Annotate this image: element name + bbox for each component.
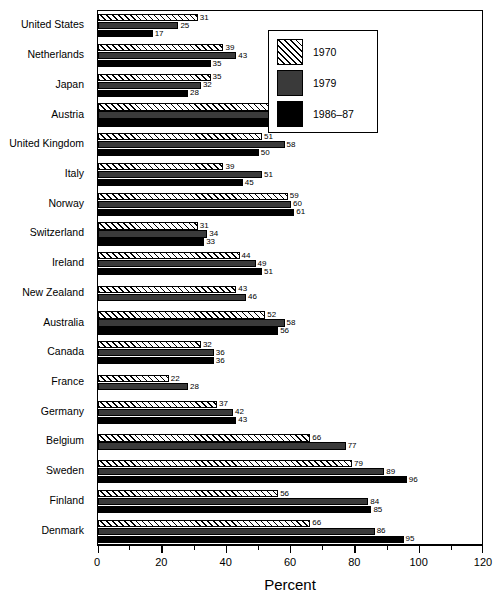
horizontal-bar-chart: United StatesNetherlandsJapanAustriaUnit… [0, 0, 496, 607]
chart-legend: 197019791986–87 [268, 30, 378, 133]
axis-tick-major [98, 545, 99, 553]
bar-1970-ireland [98, 252, 240, 259]
axis-tick-major [290, 545, 291, 553]
category-label: Germany [41, 406, 84, 417]
bar-1970-denmark [98, 520, 310, 527]
axis-tick-major [226, 545, 227, 553]
bar-1970-finland [98, 490, 278, 497]
value-axis-title: Percent [97, 576, 483, 594]
bar-value-label: 31 [200, 14, 209, 22]
bar-1979-austria [98, 111, 288, 118]
bar-value-label: 51 [264, 268, 273, 276]
category-label: United States [21, 19, 84, 30]
bar-1979-australia [98, 319, 285, 326]
bar-1970-sweden [98, 460, 352, 467]
bar-1970-germany [98, 401, 217, 408]
axis-tick-label: 40 [220, 556, 232, 568]
legend-swatch-198687 [277, 101, 303, 127]
bar-198687-germany [98, 417, 236, 424]
category-label: Finland [50, 495, 84, 506]
bar-1970-australia [98, 311, 265, 318]
axis-tick-label: 0 [94, 556, 100, 568]
bar-value-label: 35 [213, 60, 222, 68]
bar-value-label: 50 [261, 149, 270, 157]
category-label: United Kingdom [9, 138, 84, 149]
value-axis: 020406080100120 [97, 545, 483, 565]
bar-value-label: 56 [280, 490, 289, 498]
bar-value-label: 52 [267, 311, 276, 319]
legend-item-1979: 1979 [277, 70, 375, 98]
bar-198687-netherlands [98, 60, 211, 67]
axis-tick-minor [387, 545, 388, 550]
category-label: Norway [48, 198, 84, 209]
category-label: Switzerland [30, 227, 84, 238]
legend-label: 1986–87 [313, 108, 354, 120]
bar-1970-italy [98, 163, 223, 170]
axis-tick-major [161, 545, 162, 553]
bar-1979-norway [98, 201, 291, 208]
bar-1979-france [98, 383, 188, 390]
bar-1970-new-zealand [98, 286, 236, 293]
bar-value-label: 33 [206, 238, 215, 246]
bar-1979-finland [98, 498, 368, 505]
bar-198687-switzerland [98, 238, 204, 245]
bar-1970-switzerland [98, 222, 198, 229]
legend-label: 1979 [313, 77, 336, 89]
bar-value-label: 39 [225, 44, 234, 52]
bar-1970-belgium [98, 434, 310, 441]
bar-value-label: 28 [190, 89, 199, 97]
axis-tick-major [354, 545, 355, 553]
bar-198687-denmark [98, 536, 404, 543]
bar-1979-italy [98, 171, 262, 178]
bar-198687-united-states [98, 30, 153, 37]
bar-value-label: 31 [200, 222, 209, 230]
bar-198687-canada [98, 357, 214, 364]
bar-value-label: 35 [213, 73, 222, 81]
bar-198687-austria [98, 119, 294, 126]
bar-value-label: 61 [296, 208, 305, 216]
axis-tick-minor [451, 545, 452, 550]
category-label: New Zealand [22, 287, 84, 298]
bar-value-label: 43 [238, 285, 247, 293]
category-label: France [51, 376, 84, 387]
bar-1970-france [98, 375, 169, 382]
bar-198687-sweden [98, 476, 407, 483]
bar-value-label: 22 [171, 375, 180, 383]
bar-1979-denmark [98, 528, 375, 535]
bar-value-label: 32 [203, 81, 212, 89]
bar-value-label: 32 [203, 341, 212, 349]
axis-tick-minor [129, 545, 130, 550]
bar-value-label: 51 [264, 171, 273, 179]
bar-value-label: 44 [242, 252, 251, 260]
category-label: Belgium [46, 435, 84, 446]
bar-1979-germany [98, 409, 233, 416]
bar-1979-sweden [98, 468, 384, 475]
bar-value-label: 46 [248, 293, 257, 301]
bar-1979-belgium [98, 442, 346, 449]
category-axis-labels: United StatesNetherlandsJapanAustriaUnit… [0, 10, 90, 545]
bar-198687-norway [98, 209, 294, 216]
bar-1979-united-states [98, 22, 178, 29]
bar-1979-new-zealand [98, 294, 246, 301]
axis-tick-label: 80 [348, 556, 360, 568]
bar-value-label: 89 [386, 468, 395, 476]
axis-tick-minor [322, 545, 323, 550]
bar-value-label: 36 [216, 357, 225, 365]
bar-value-label: 43 [238, 52, 247, 60]
bar-value-label: 66 [312, 519, 321, 527]
axis-tick-label: 120 [474, 556, 492, 568]
bar-value-label: 25 [180, 22, 189, 30]
axis-tick-label: 20 [155, 556, 167, 568]
category-label: Italy [65, 168, 84, 179]
bar-value-label: 17 [155, 30, 164, 38]
bar-value-label: 85 [373, 506, 382, 514]
legend-item-198687: 1986–87 [277, 101, 375, 129]
category-label: Canada [47, 346, 84, 357]
axis-tick-label: 100 [409, 556, 427, 568]
bar-value-label: 66 [312, 434, 321, 442]
axis-tick-major [419, 545, 420, 553]
category-label: Netherlands [27, 49, 84, 60]
category-label: Ireland [52, 257, 84, 268]
category-label: Australia [43, 317, 84, 328]
bar-1970-canada [98, 341, 201, 348]
